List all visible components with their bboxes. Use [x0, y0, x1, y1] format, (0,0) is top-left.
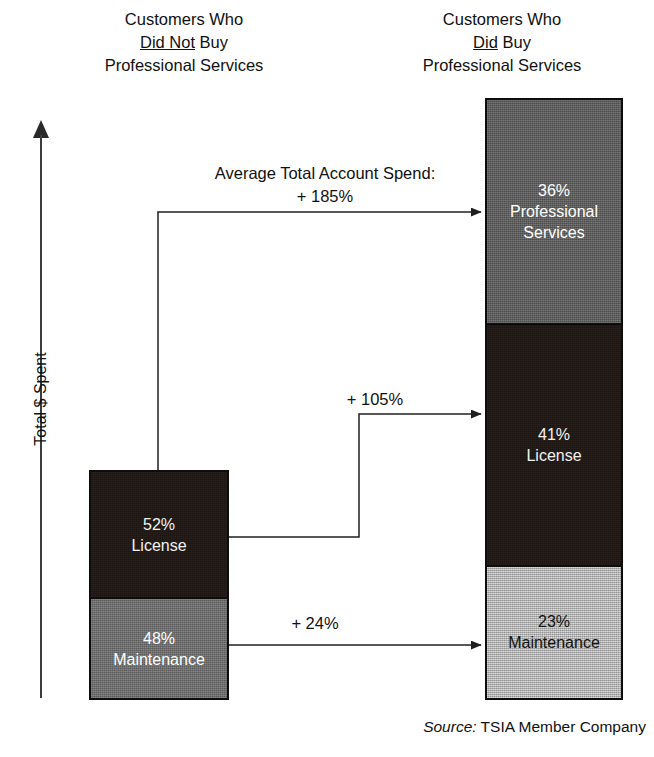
bar-did-buy[interactable]: 36% Professional Services 41% License 23… — [485, 98, 623, 700]
segment-right-ps-label1: Professional — [510, 201, 598, 222]
connector-license — [229, 414, 481, 537]
segment-right-license-label: License — [526, 445, 581, 466]
segment-left-maintenance-label: Maintenance — [113, 649, 205, 670]
segment-left-maintenance-pct: 48% — [143, 628, 175, 649]
source-note: Source: TSIA Member Company — [423, 718, 646, 736]
segment-right-maintenance-pct: 23% — [538, 611, 570, 632]
segment-left-license-pct: 52% — [143, 514, 175, 535]
bar-did-not-buy[interactable]: 52% License 48% Maintenance — [89, 470, 229, 700]
segment-left-license[interactable]: 52% License — [91, 472, 227, 597]
segment-right-professional-services[interactable]: 36% Professional Services — [487, 100, 621, 323]
source-note-text: TSIA Member Company — [481, 718, 646, 735]
segment-right-license[interactable]: 41% License — [487, 323, 621, 565]
segment-right-maintenance[interactable]: 23% Maintenance — [487, 565, 621, 698]
source-note-prefix: Source: — [423, 718, 476, 735]
segment-right-ps-label2: Services — [523, 222, 584, 243]
segment-left-license-label: License — [131, 535, 186, 556]
segment-right-maintenance-label: Maintenance — [508, 632, 600, 653]
connector-total-spend — [158, 212, 481, 470]
chart-canvas: Customers Who Did Not Buy Professional S… — [0, 0, 654, 757]
segment-left-maintenance[interactable]: 48% Maintenance — [91, 597, 227, 698]
segment-right-license-pct: 41% — [538, 424, 570, 445]
segment-right-ps-pct: 36% — [538, 180, 570, 201]
